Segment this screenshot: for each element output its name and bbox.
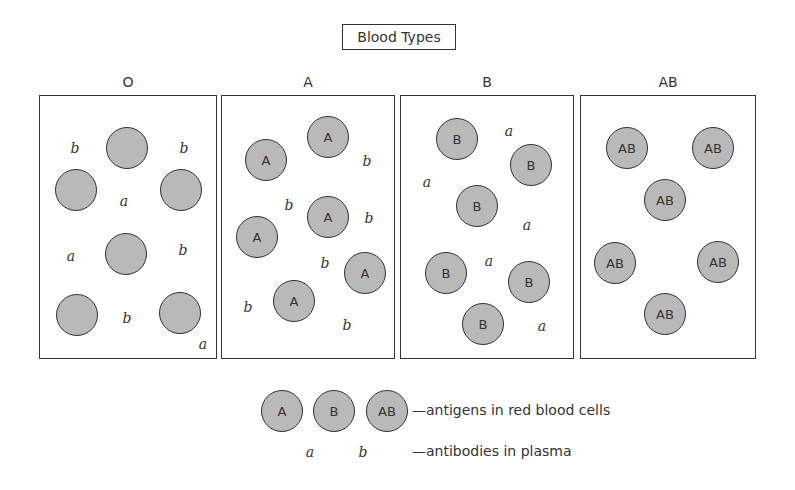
panel-label-a: A (288, 74, 328, 90)
red-blood-cell: A (236, 216, 278, 258)
red-blood-cell: B (462, 303, 504, 345)
diagram-title: Blood Types (342, 24, 456, 50)
antibody-b: b (179, 242, 188, 258)
antibody-a: a (67, 248, 75, 264)
red-blood-cell: AB (594, 242, 636, 284)
red-blood-cell (106, 127, 148, 169)
red-blood-cell: A (344, 252, 386, 294)
legend-cell-b: B (313, 390, 355, 432)
antibody-b: b (365, 210, 374, 226)
panel-label-o: O (108, 74, 148, 90)
legend-antigens-label: —antigens in red blood cells (412, 402, 610, 418)
panel-label-b: B (467, 74, 507, 90)
red-blood-cell: A (307, 196, 349, 238)
red-blood-cell: B (425, 252, 467, 294)
red-blood-cell: AB (697, 241, 739, 283)
antibody-b: b (343, 317, 352, 333)
red-blood-cell (56, 294, 98, 336)
antibody-a: a (485, 253, 493, 269)
antibody-b: b (180, 140, 189, 156)
antibody-a: a (199, 336, 207, 352)
antibody-a: a (523, 217, 531, 233)
legend-cell-ab: AB (366, 390, 408, 432)
red-blood-cell (55, 169, 97, 211)
red-blood-cell (160, 169, 202, 211)
red-blood-cell: AB (692, 127, 734, 169)
red-blood-cell: B (456, 185, 498, 227)
red-blood-cell: AB (606, 127, 648, 169)
antibody-b: b (363, 153, 372, 169)
red-blood-cell (105, 233, 147, 275)
red-blood-cell: B (508, 261, 550, 303)
panel-label-ab: AB (648, 74, 688, 90)
red-blood-cell (159, 292, 201, 334)
antibody-b: b (244, 299, 253, 315)
antibody-a: a (423, 174, 431, 190)
red-blood-cell: A (273, 280, 315, 322)
antibody-b: b (321, 255, 330, 271)
antibody-b: b (71, 140, 80, 156)
red-blood-cell: AB (644, 293, 686, 335)
legend-antibody-b: b (359, 444, 368, 460)
antibody-a: a (505, 123, 513, 139)
red-blood-cell: A (245, 139, 287, 181)
red-blood-cell: AB (644, 179, 686, 221)
antibody-a: a (120, 193, 128, 209)
red-blood-cell: A (307, 116, 349, 158)
antibody-b: b (123, 310, 132, 326)
legend-cell-a: A (261, 390, 303, 432)
antibody-b: b (285, 197, 294, 213)
red-blood-cell: B (510, 144, 552, 186)
antibody-a: a (538, 318, 546, 334)
legend-antibodies-label: —antibodies in plasma (412, 443, 572, 459)
red-blood-cell: B (436, 118, 478, 160)
legend-antibody-a: a (306, 444, 314, 460)
